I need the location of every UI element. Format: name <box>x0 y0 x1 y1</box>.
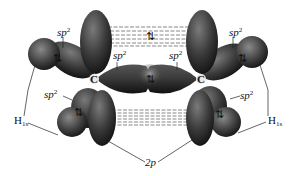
electron-pair-upper-right: ⇅ <box>238 52 247 64</box>
label-2p: 2p <box>145 156 157 168</box>
pi-electron-pair-upper: ⇅ <box>146 30 155 42</box>
label-h1s-left: H1s <box>14 114 28 128</box>
carbon-atom-right: C <box>196 73 206 85</box>
electron-pair-lower-left: ⇅ <box>74 106 83 118</box>
ethylene-orbital-diagram: ⇅ ⇅ ⇅ ⇅ ⇅ ⇅ C C <box>0 0 294 176</box>
label-sp2-center-left: sp2 <box>113 49 127 61</box>
pi-overlap-lower <box>112 110 190 125</box>
label-sp2-upper-left: sp2 <box>57 26 71 38</box>
electron-pair-upper-left: ⇅ <box>53 52 62 64</box>
svg-text:C: C <box>197 73 205 85</box>
label-sp2-lower-right: sp2 <box>240 89 254 101</box>
p-lobe-upper-right <box>186 10 218 74</box>
p-lobe-lower-right <box>186 90 214 146</box>
label-h1s-right: H1s <box>268 114 282 128</box>
label-sp2-upper-right: sp2 <box>229 26 243 38</box>
carbon-atom-left: C <box>89 73 99 85</box>
p-lobe-upper-left <box>80 10 112 74</box>
label-sp2-center-right: sp2 <box>169 49 183 61</box>
electron-pair-lower-right: ⇅ <box>215 108 224 120</box>
label-sp2-lower-left: sp2 <box>44 88 58 100</box>
svg-text:C: C <box>90 73 98 85</box>
p-lobe-lower-left <box>88 90 116 146</box>
sigma-electron-pair: ⇅ <box>146 73 155 85</box>
